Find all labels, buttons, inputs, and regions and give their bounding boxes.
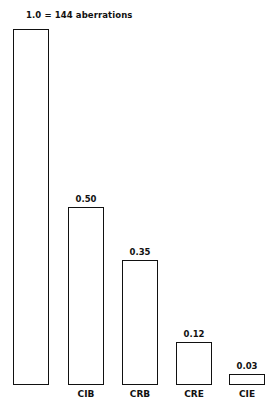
bar-cib bbox=[68, 207, 104, 385]
bar-crb bbox=[122, 260, 158, 385]
bar-value-label: 0.35 bbox=[120, 247, 160, 257]
bar-cie bbox=[229, 374, 265, 385]
bar-cre bbox=[176, 342, 212, 385]
bar-value-label: 0.50 bbox=[66, 194, 106, 204]
category-label: CIE bbox=[227, 389, 267, 399]
bar-total bbox=[13, 29, 49, 385]
chart-title: 1.0 = 144 aberrations bbox=[26, 10, 133, 20]
category-label: CRB bbox=[120, 389, 160, 399]
category-label: CIB bbox=[66, 389, 106, 399]
category-label: CRE bbox=[174, 389, 214, 399]
bar-value-label: 0.12 bbox=[174, 329, 214, 339]
bar-value-label: 0.03 bbox=[227, 361, 267, 371]
